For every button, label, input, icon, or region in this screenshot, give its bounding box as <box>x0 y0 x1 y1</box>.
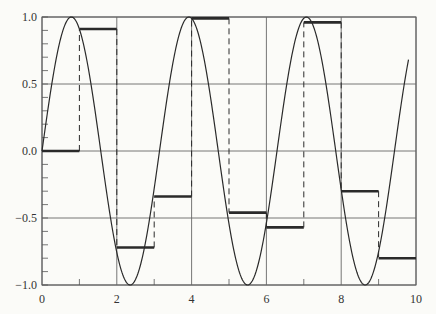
x-tick-label: 4 <box>189 292 195 306</box>
x-tick-label: 6 <box>263 292 269 306</box>
y-tick-label: 0.0 <box>22 144 37 158</box>
tick-labels: 02468101.00.50.0−0.5−1.0 <box>15 10 422 306</box>
y-tick-label: 0.5 <box>22 77 37 91</box>
y-tick-label: 1.0 <box>22 10 37 24</box>
y-tick-label: −1.0 <box>15 278 37 292</box>
x-tick-label: 10 <box>410 292 422 306</box>
x-tick-label: 8 <box>338 292 344 306</box>
chart: 02468101.00.50.0−0.5−1.0 <box>0 0 436 314</box>
y-tick-label: −0.5 <box>15 211 37 225</box>
x-tick-label: 0 <box>39 292 45 306</box>
x-tick-label: 2 <box>114 292 120 306</box>
